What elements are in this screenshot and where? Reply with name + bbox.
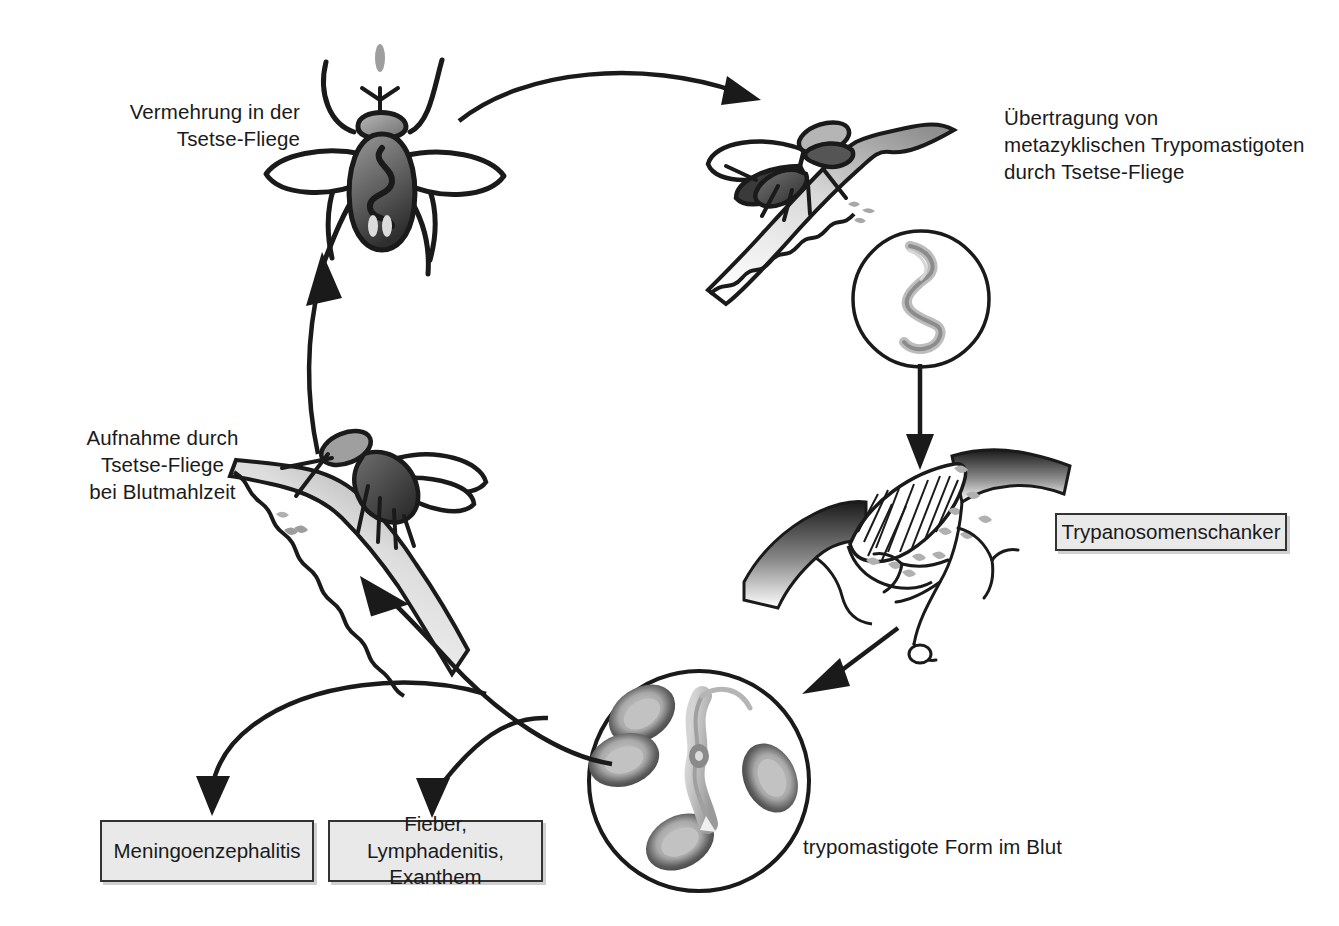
label-uptake-by-fly: Aufnahme durch Tsetse-Fliege bei Blutmah… [30,424,295,505]
arrow-parasite-to-chancre [898,362,942,472]
figure-fly-biting-skin [700,108,990,353]
arrow-fly-to-biting-fly [455,48,785,138]
arrow-to-meningoencephalitis [160,640,490,820]
arrow-bloodmeal-to-fly-multiplication [292,248,362,458]
arrow-chancre-to-blood [788,622,908,732]
box-fever-lymphadenitis: Fieber, Lymphadenitis, Exanthem [328,820,543,882]
figure-blood-smear-circle [584,666,814,896]
label-multiplication-in-fly: Vermehrung in der Tsetse-Fliege [40,98,300,152]
arrow-to-fever-lymphadenitis [398,700,558,822]
label-transmission: Übertragung von metazyklischen Trypomast… [1004,104,1334,185]
box-trypanosome-chancre: Trypanosomenschanker [1055,513,1287,551]
figure-fly-dorsal [258,26,558,286]
label-blood-form: trypomastigote Form im Blut [803,833,1133,860]
figure-skin-chancre [742,432,1072,680]
diagram-canvas: Vermehrung in der Tsetse-Fliege Übertrag… [0,0,1339,926]
box-meningoencephalitis: Meningoenzephalitis [100,820,314,882]
arrow-blood-to-bloodmeal-skin [320,566,620,776]
figure-metacyclic-trypomastigote-circle [848,226,994,372]
